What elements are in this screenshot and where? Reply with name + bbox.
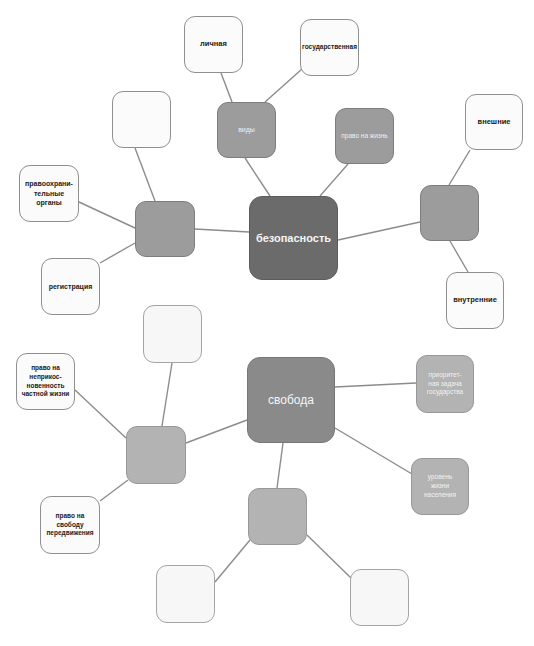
edge-center-right-node (338, 222, 420, 240)
priority-task-label: приоритет- ная задача государства (427, 371, 463, 397)
personal-node[interactable]: личная (184, 16, 243, 73)
internal-label: внутренние (453, 295, 497, 305)
edge-kinds-state (265, 69, 302, 102)
freedom-left-node[interactable] (126, 426, 186, 484)
edge-left-node-registration (100, 243, 135, 263)
security-center-label: безопасность (256, 231, 331, 246)
freedom-bottom-left-empty-node[interactable] (156, 565, 215, 623)
privacy-label: право на неприкос- новенность частной жи… (22, 364, 70, 399)
personal-label: личная (200, 39, 227, 49)
law-enforcement-label: правоохрани- тельные органы (25, 179, 73, 207)
edge-center-right-to-life (320, 164, 348, 196)
living-standard-node[interactable]: уровень жизни населения (411, 458, 469, 515)
edge-left-node-upper-empty (162, 363, 172, 426)
security-top-empty-node[interactable] (112, 91, 171, 148)
freedom-bottom-node[interactable] (248, 488, 307, 545)
edge-freedom-left-node (186, 420, 247, 443)
security-right-node[interactable] (420, 185, 479, 241)
security-center-node[interactable]: безопасность (249, 196, 338, 280)
priority-task-node[interactable]: приоритет- ная задача государства (416, 355, 474, 413)
living-standard-label: уровень жизни населения (424, 473, 456, 499)
edge-center-left-node (195, 229, 249, 232)
edge-freedom-bottom-node (277, 443, 283, 488)
mind-map-canvas: безопасность виды личная государственная… (0, 0, 534, 646)
freedom-upper-empty-node[interactable] (143, 305, 202, 363)
freedom-bottom-right-empty-node[interactable] (350, 569, 409, 626)
edge-left-node-law-enforcement (79, 202, 135, 228)
edge-left-node-privacy (75, 390, 126, 438)
right-to-life-label: право на жизнь (341, 132, 388, 141)
internal-node[interactable]: внутренние (446, 272, 504, 329)
edge-bottom-node-left-empty (215, 540, 250, 582)
freedom-center-node[interactable]: свобода (247, 357, 335, 443)
law-enforcement-node[interactable]: правоохрани- тельные органы (19, 165, 79, 222)
movement-node[interactable]: право на свободу передвижения (40, 496, 100, 554)
kinds-label: виды (238, 125, 255, 134)
state-node[interactable]: государственная (300, 19, 359, 76)
edge-freedom-living-standard (335, 428, 412, 474)
movement-label: право на свободу передвижения (46, 512, 93, 538)
kinds-node[interactable]: виды (217, 102, 276, 158)
registration-node[interactable]: регистрация (41, 258, 100, 315)
external-label: внешние (478, 117, 511, 127)
external-node[interactable]: внешние (465, 94, 523, 150)
edge-bottom-node-right-empty (307, 535, 351, 578)
state-label: государственная (302, 43, 357, 52)
freedom-center-label: свобода (268, 392, 314, 408)
edge-center-kinds (245, 158, 270, 196)
edge-left-node-movement (100, 480, 128, 501)
edge-kinds-personal (221, 73, 232, 102)
security-left-node[interactable] (135, 201, 195, 257)
edge-freedom-priority (335, 383, 416, 387)
edge-right-node-internal (450, 241, 468, 272)
edge-right-node-external (449, 150, 470, 185)
registration-label: регистрация (49, 282, 93, 291)
right-to-life-node[interactable]: право на жизнь (335, 108, 394, 164)
edge-left-node-top-empty (135, 148, 155, 201)
privacy-node[interactable]: право на неприкос- новенность частной жи… (16, 353, 75, 410)
